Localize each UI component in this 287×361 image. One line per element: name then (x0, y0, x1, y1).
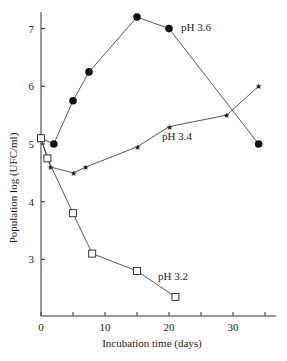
circle-marker (69, 97, 77, 105)
square-marker (134, 267, 141, 274)
star-marker: ★ (82, 163, 89, 172)
population-chart: 010203034567 ★★★★★★★★ Incubation time (d… (0, 0, 287, 361)
star-marker: ★ (223, 111, 230, 120)
series-layer: ★★★★★★★★ (37, 13, 262, 300)
x-tick-label: 10 (100, 321, 112, 333)
x-tick-label: 0 (38, 321, 44, 333)
square-marker (172, 293, 179, 300)
circle-marker (165, 25, 173, 33)
y-axis-label: Population log (UFC/ml) (7, 132, 20, 243)
circle-marker (50, 140, 58, 148)
series-label-ph32: pH 3.2 (158, 270, 188, 282)
y-tick-label: 3 (29, 253, 35, 265)
y-tick-label: 5 (29, 138, 35, 150)
circle-marker (133, 13, 141, 21)
series-label-ph34: pH 3.4 (162, 130, 192, 142)
series-ph36 (37, 13, 262, 148)
series-label-ph36: pH 3.6 (181, 21, 211, 33)
labels-layer: Incubation time (days) Population log (U… (7, 21, 211, 350)
star-marker: ★ (70, 169, 77, 178)
y-tick-label: 7 (29, 23, 35, 35)
circle-marker (255, 140, 263, 148)
x-tick-label: 20 (164, 321, 176, 333)
x-axis-label: Incubation time (days) (102, 337, 202, 350)
square-marker (38, 135, 45, 142)
square-marker (44, 155, 51, 162)
star-marker: ★ (134, 143, 141, 152)
square-marker (89, 250, 96, 257)
axes: 010203034567 (29, 12, 277, 333)
x-tick-label: 30 (228, 321, 240, 333)
star-marker: ★ (255, 82, 262, 91)
y-tick-label: 6 (29, 80, 35, 92)
series-ph34: ★★★★★★★★ (38, 82, 263, 178)
circle-marker (85, 68, 93, 76)
series-line (41, 17, 259, 144)
square-marker (70, 210, 77, 217)
y-tick-label: 4 (29, 196, 35, 208)
series-line (41, 138, 175, 297)
